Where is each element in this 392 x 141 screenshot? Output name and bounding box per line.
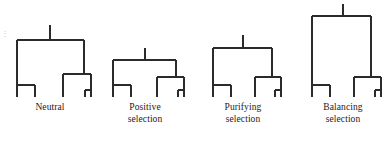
figure-root: ⋮ (0, 0, 392, 141)
tree-label-neutral: Neutral (16, 102, 84, 114)
tree-positive-selection (113, 48, 184, 97)
tree-balancing-selection (312, 4, 381, 97)
tree-label-balancing-selection: Balancing selection (309, 102, 377, 125)
tree-purifying-selection (213, 35, 281, 97)
tree-neutral (17, 25, 91, 97)
tree-label-purifying-selection: Purifying selection (209, 102, 277, 125)
tree-label-positive-selection: Positive selection (111, 102, 179, 125)
